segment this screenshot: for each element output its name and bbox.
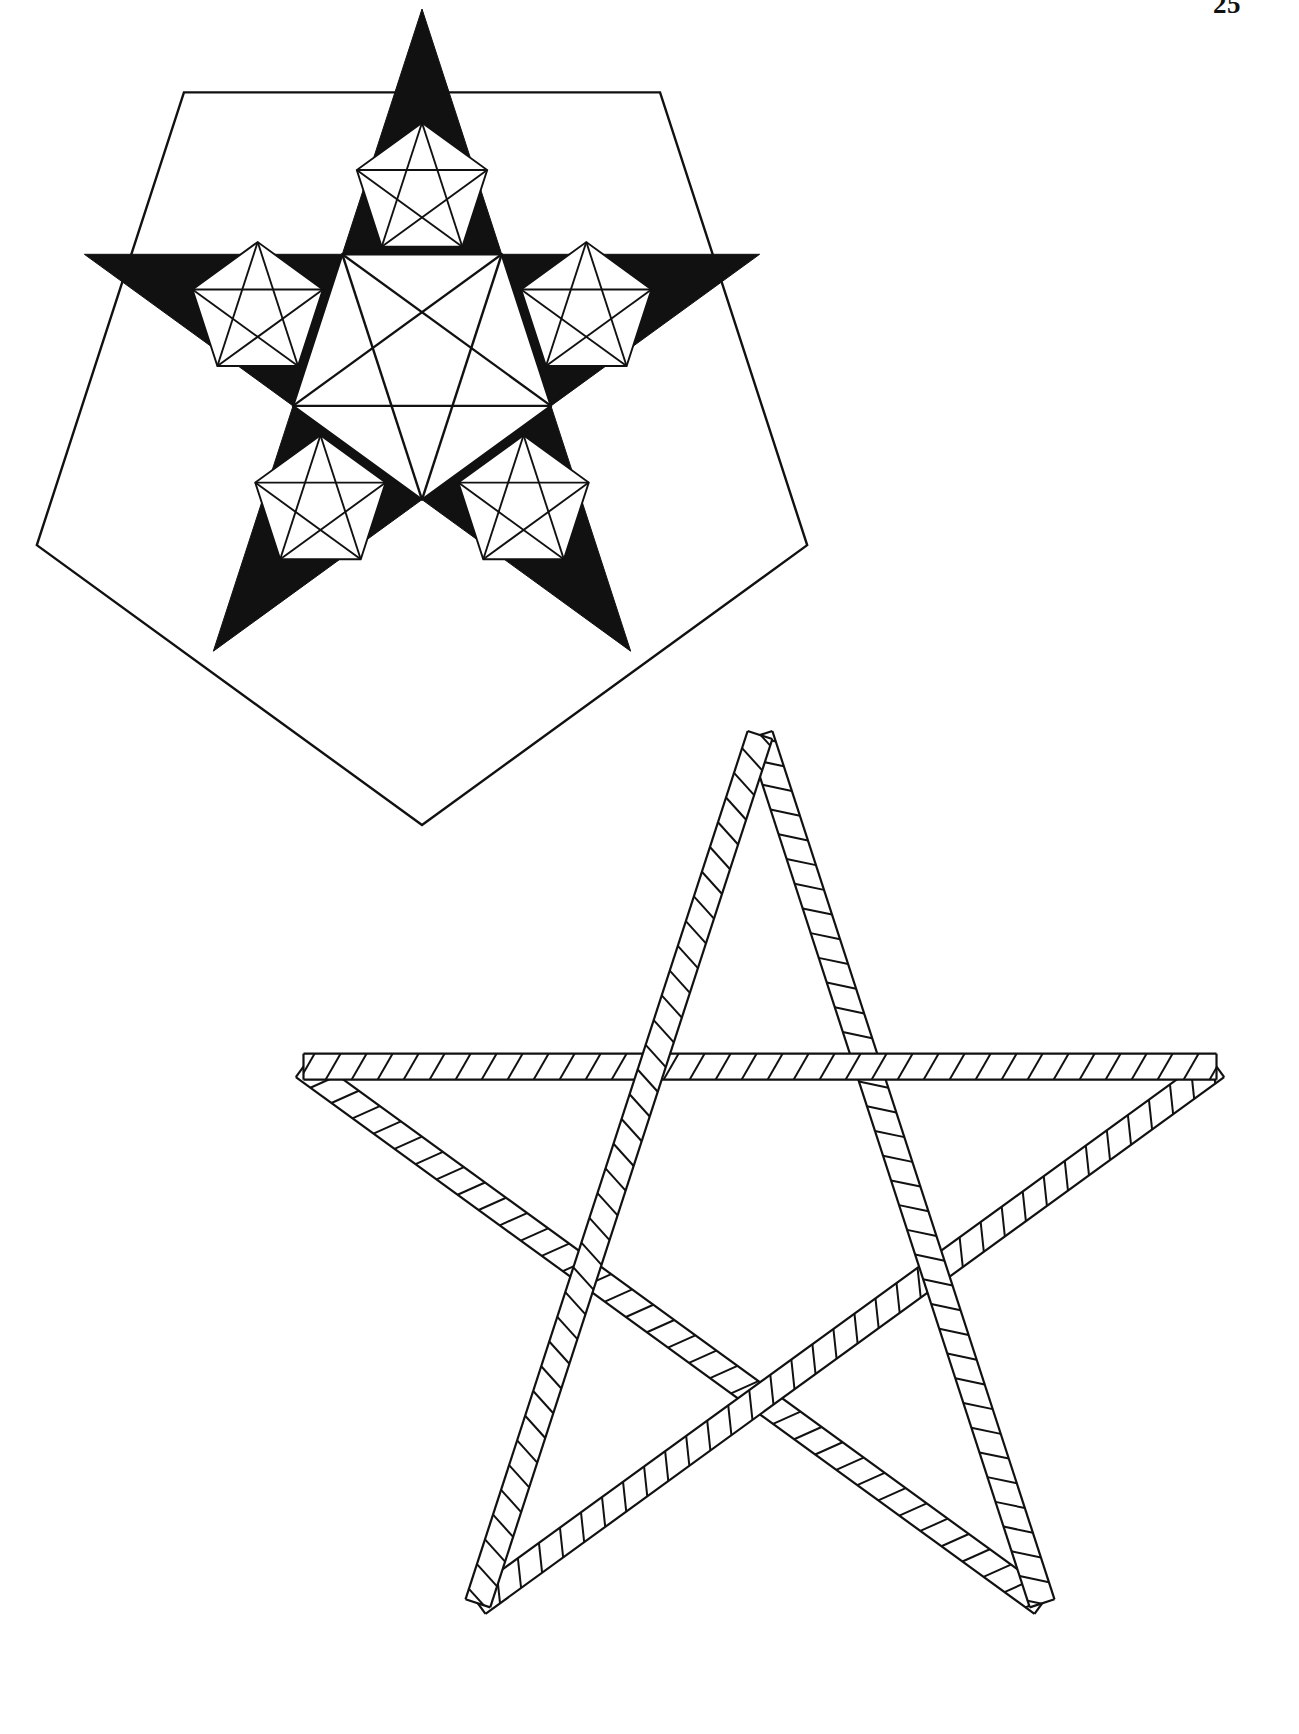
hatch-stroke bbox=[1036, 1626, 1065, 1632]
plate-drawing bbox=[0, 0, 1299, 1734]
figure-woven-band-pentagram bbox=[268, 699, 1250, 1636]
band-fill-1 bbox=[748, 731, 1055, 1607]
hatch-stroke bbox=[738, 711, 767, 717]
band-fill-2 bbox=[296, 1056, 1050, 1614]
hatch-stroke bbox=[455, 1604, 458, 1634]
page-canvas: 25 bbox=[0, 0, 1299, 1734]
hatch-stroke bbox=[268, 1045, 295, 1057]
band-segment-3 bbox=[274, 1054, 1251, 1080]
hatch-stroke bbox=[1233, 1039, 1236, 1069]
band-rail-inner-4 bbox=[486, 1077, 1225, 1614]
band-fill-3 bbox=[303, 1054, 1216, 1080]
hatch-stroke bbox=[758, 699, 778, 721]
band-rail-inner-1 bbox=[772, 731, 1054, 1599]
figure-pentagon-fractal-pentagram bbox=[37, 9, 807, 825]
band-fill-5 bbox=[466, 731, 773, 1607]
band-rail-inner-5 bbox=[466, 731, 748, 1599]
hatch-stroke bbox=[461, 1614, 481, 1636]
band-rail-inner-2 bbox=[296, 1077, 1035, 1614]
hatch-stroke bbox=[1236, 1054, 1251, 1080]
hatch-stroke bbox=[274, 1054, 289, 1080]
hatch-stroke bbox=[1047, 1610, 1074, 1622]
